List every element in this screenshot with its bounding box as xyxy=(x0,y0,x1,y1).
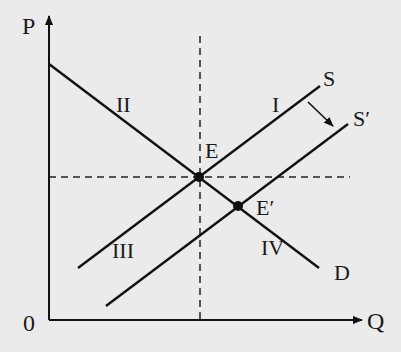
shifted-supply-label: S′ xyxy=(353,108,370,130)
shifted-supply-curve xyxy=(106,124,348,306)
shift-arrow-icon xyxy=(308,102,333,126)
new-equilibrium-point xyxy=(233,201,243,211)
origin-label: 0 xyxy=(23,311,35,335)
supply-label: S xyxy=(323,68,335,90)
region-label-i: I xyxy=(272,94,279,116)
equilibrium-point xyxy=(194,172,204,182)
region-label-ii: II xyxy=(116,94,131,116)
supply-demand-diagram: P Q 0 D S S′ E E′ I II III IV xyxy=(0,0,401,352)
x-axis-label: Q xyxy=(367,309,384,333)
equilibrium-label: E xyxy=(205,140,218,162)
new-equilibrium-label: E′ xyxy=(256,197,274,219)
region-label-iv: IV xyxy=(261,237,284,259)
demand-label: D xyxy=(334,262,350,284)
y-axis-label: P xyxy=(22,14,35,38)
region-label-iii: III xyxy=(112,240,134,262)
